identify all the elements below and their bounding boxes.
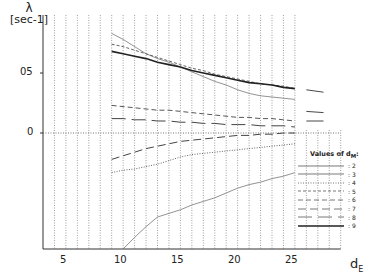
series-line-dm-2 (123, 173, 295, 249)
grid-lines (43, 15, 341, 249)
legend-entry: : 4 (298, 178, 374, 187)
x-tick-25: 25 (285, 254, 298, 265)
legend-swatch (298, 206, 344, 212)
legend-entry: : 5 (298, 187, 374, 196)
x-tick-5: 5 (60, 254, 66, 265)
legend-entry: : 6 (298, 196, 374, 205)
y-axis-label: λ [sec-1] (10, 2, 48, 26)
legend-swatch (298, 163, 344, 169)
legend-entry-label: : 6 (348, 196, 356, 203)
legend-swatch (298, 197, 344, 203)
legend-entry-label: : 2 (348, 162, 356, 169)
legend-title: Values of dM: (298, 150, 374, 159)
x-axis-label: dE (350, 256, 363, 274)
legend-entry-label: : 7 (348, 205, 356, 212)
legend: Values of dM: : 2: 3: 4: 5: 6: 7: 8: 9 (298, 150, 374, 230)
legend-entry: : 3 (298, 170, 374, 179)
legend-entry: : 9 (298, 221, 374, 230)
legend-entry-label: : 9 (348, 222, 356, 229)
x-tick-10: 10 (114, 254, 127, 265)
extra-segment (306, 90, 323, 92)
legend-swatch (298, 180, 344, 186)
y-axis-unit: [sec-1] (10, 13, 48, 26)
x-tick-20: 20 (228, 254, 241, 265)
legend-entry-label: : 8 (348, 214, 356, 221)
legend-entry: : 2 (298, 161, 374, 170)
axes (40, 15, 341, 249)
legend-swatch (298, 171, 344, 177)
extra-segment (306, 111, 323, 112)
legend-entry-label: : 4 (348, 179, 356, 186)
legend-title-text: Values of d (310, 150, 351, 158)
legend-swatch (298, 188, 344, 194)
legend-title-sub: M (351, 153, 356, 159)
y-tick-0: 0 (27, 126, 33, 137)
legend-rows: : 2: 3: 4: 5: 6: 7: 8: 9 (298, 161, 374, 230)
x-axis-label-sub: E (358, 265, 363, 274)
x-tick-15: 15 (171, 254, 184, 265)
chart-canvas (0, 0, 374, 278)
legend-swatch (298, 223, 344, 229)
legend-entry-label: : 3 (348, 171, 356, 178)
legend-entry: : 7 (298, 204, 374, 213)
legend-entry: : 8 (298, 213, 374, 222)
series-lines (112, 33, 324, 249)
legend-entry-label: : 5 (348, 188, 356, 195)
y-tick-005: 05 (20, 66, 33, 77)
legend-swatch (298, 214, 344, 220)
